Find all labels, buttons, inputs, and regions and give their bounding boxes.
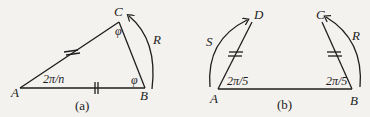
vertex-label-a: A (209, 91, 218, 106)
vertex-label-b: B (350, 93, 358, 108)
rotation-label-s: S (206, 34, 213, 49)
rotation-label-r: R (152, 32, 161, 47)
angle-label-a: 2π/n (43, 72, 64, 86)
vertex-label-d: D (253, 7, 264, 22)
vertex-label-c: C (114, 4, 123, 19)
panel-caption-b: (b) (277, 97, 292, 112)
tick-mark-ac (64, 50, 80, 55)
rotation-label-r: R (351, 28, 360, 43)
panel-a: A B C φ φ 2π/n R (a) (10, 4, 161, 113)
angle-label-b: 2π/5 (326, 74, 347, 88)
vertex-label-a: A (10, 85, 19, 100)
vertex-label-c: C (316, 7, 325, 22)
panel-caption-a: (a) (75, 98, 89, 113)
angle-label-c: φ (115, 24, 122, 38)
tick-mark-bc (327, 52, 342, 56)
angle-label-b: φ (131, 73, 138, 87)
angle-label-a: 2π/5 (227, 74, 248, 88)
diagram-canvas: A B C φ φ 2π/n R (a) A B C D 2π/5 2π/5 S (0, 0, 370, 117)
vertex-label-b: B (140, 88, 148, 103)
panel-b: A B C D 2π/5 2π/5 S R (b) (206, 7, 360, 112)
